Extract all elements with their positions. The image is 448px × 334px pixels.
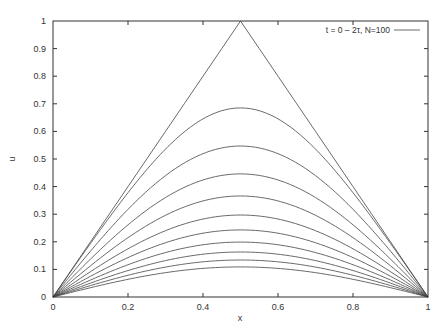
series-line-u1 — [53, 108, 428, 297]
y-tick-label: 0.3 — [33, 209, 46, 219]
y-tick-label: 0.7 — [33, 99, 46, 109]
y-tick-label: 1 — [41, 16, 46, 26]
legend-entry-label: t = 0 – 2τ, N=100 — [326, 25, 391, 35]
series-line-u3 — [53, 174, 428, 297]
x-tick-label: 0.2 — [122, 302, 135, 312]
chart: 00.20.40.60.81 00.10.20.30.40.50.60.70.8… — [0, 0, 448, 334]
y-tick-label: 0 — [41, 292, 46, 302]
x-tick-label: 1 — [425, 302, 430, 312]
plot-frame — [53, 21, 428, 297]
x-axis-label: x — [238, 313, 243, 323]
series-line-u10 — [53, 267, 428, 297]
series-line-u6 — [53, 230, 428, 297]
y-tick-label: 0.5 — [33, 154, 46, 164]
series-line-u0 — [53, 21, 428, 297]
series-line-u9 — [53, 260, 428, 297]
series-line-u5 — [53, 215, 428, 297]
x-axis: 00.20.40.60.81 — [50, 21, 430, 312]
y-tick-label: 0.2 — [33, 237, 46, 247]
x-tick-label: 0.4 — [197, 302, 210, 312]
series-line-u2 — [53, 146, 428, 297]
y-tick-label: 0.8 — [33, 71, 46, 81]
x-tick-label: 0.8 — [347, 302, 360, 312]
series-line-u7 — [53, 242, 428, 297]
y-tick-label: 0.4 — [33, 182, 46, 192]
series-line-u8 — [53, 252, 428, 297]
x-tick-label: 0 — [50, 302, 55, 312]
y-tick-label: 0.1 — [33, 264, 46, 274]
y-axis: 00.10.20.30.40.50.60.70.80.91 — [33, 16, 428, 302]
y-axis-label: u — [7, 156, 17, 161]
y-tick-label: 0.9 — [33, 44, 46, 54]
x-tick-label: 0.6 — [272, 302, 285, 312]
curves-group — [53, 21, 428, 297]
legend: t = 0 – 2τ, N=100 — [326, 25, 420, 35]
series-line-u4 — [53, 196, 428, 297]
y-tick-label: 0.6 — [33, 126, 46, 136]
